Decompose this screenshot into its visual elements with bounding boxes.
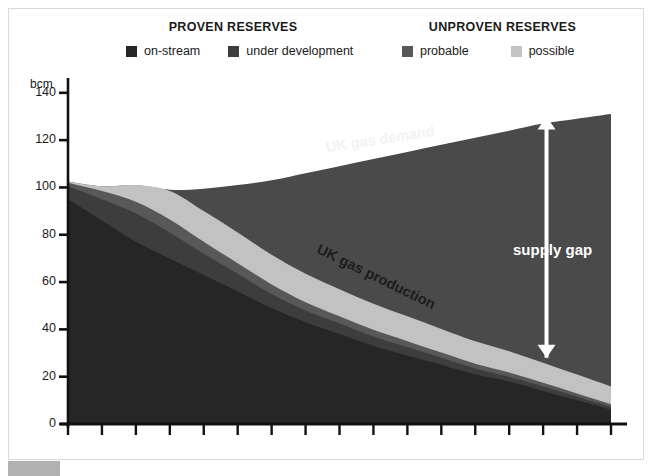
y-axis-tick-label: 20 <box>22 369 56 383</box>
y-axis-tick-label: 80 <box>22 227 56 241</box>
y-axis-tick-label: 120 <box>22 132 56 146</box>
y-axis-tick-label: 140 <box>22 85 56 99</box>
y-axis-tick-label: 40 <box>22 321 56 335</box>
chart-plot-area: bcm 020406080100120140 UK gas demand UK … <box>0 0 652 476</box>
y-axis-tick-label: 0 <box>22 416 56 430</box>
figure-root: PROVEN RESERVES on-stream under developm… <box>0 0 652 476</box>
chart-svg <box>0 0 652 476</box>
y-axis-tick-label: 60 <box>22 274 56 288</box>
annotation-supply-gap: supply gap <box>513 241 592 258</box>
chart-area-series <box>68 114 611 424</box>
y-axis-tick-label: 100 <box>22 179 56 193</box>
bottom-left-tab <box>8 461 60 476</box>
